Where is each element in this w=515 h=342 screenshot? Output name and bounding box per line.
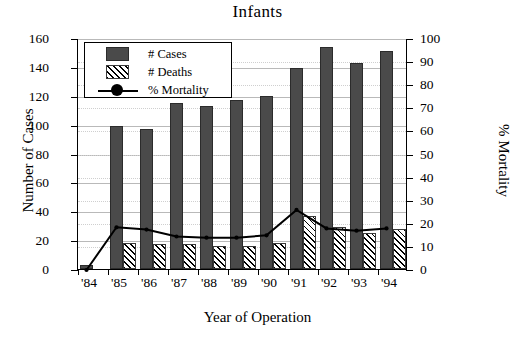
circle-marker-icon: [111, 84, 123, 96]
y-tick-right: [406, 224, 413, 225]
y-tick-label-right: 20: [420, 216, 460, 232]
chart-legend: # Cases # Deaths % Mortality: [84, 42, 232, 98]
y-tick-right: [406, 201, 413, 202]
y-tick-label-right: 0: [420, 262, 460, 278]
mortality-point: [234, 236, 238, 240]
mortality-point: [294, 208, 298, 212]
y-tick-left: [71, 126, 78, 127]
y-tick-left: [71, 39, 78, 40]
y-tick-label-right: 70: [420, 100, 460, 116]
legend-item-cases: # Cases: [85, 45, 233, 63]
y-tick-left: [71, 270, 78, 271]
mortality-point: [264, 233, 268, 237]
mortality-point: [204, 236, 208, 240]
y-tick-label-right: 80: [420, 77, 460, 93]
y-tick-label-left: 140: [9, 60, 49, 76]
y-tick-label-left: 40: [9, 204, 49, 220]
mortality-point: [114, 225, 118, 229]
y-tick-right: [406, 155, 413, 156]
y-tick-label-right: 10: [420, 239, 460, 255]
legend-label: % Mortality: [148, 81, 209, 99]
x-tick-label: '94: [369, 275, 409, 291]
y-tick-right: [406, 131, 413, 132]
y-tick-label-left: 100: [9, 118, 49, 134]
y-tick-label-right: 90: [420, 54, 460, 70]
y-tick-label-left: 80: [9, 147, 49, 163]
y-tick-right: [406, 270, 413, 271]
y-tick-label-right: 60: [420, 123, 460, 139]
legend-item-mortality: % Mortality: [85, 81, 233, 99]
y-tick-label-left: 20: [9, 233, 49, 249]
y-tick-right: [406, 178, 413, 179]
y-tick-left: [71, 241, 78, 242]
y-tick-right: [406, 39, 413, 40]
y-tick-right: [406, 247, 413, 248]
y-tick-right: [406, 85, 413, 86]
x-axis-title: Year of Operation: [0, 309, 515, 326]
chart-container: Infants Year of Operation Number of Case…: [0, 0, 515, 342]
y-tick-label-left: 120: [9, 89, 49, 105]
page-title: Infants: [0, 2, 515, 22]
y-axis-right-title: % Mortality: [495, 61, 512, 261]
mortality-line: [87, 210, 387, 270]
y-tick-left: [71, 183, 78, 184]
y-tick-right: [406, 62, 413, 63]
y-tick-label-left: 60: [9, 175, 49, 191]
y-tick-right: [406, 108, 413, 109]
y-tick-label-right: 30: [420, 193, 460, 209]
mortality-point: [324, 226, 328, 230]
mortality-point: [144, 228, 148, 232]
y-tick-label-left: 0: [9, 262, 49, 278]
legend-label: # Cases: [148, 45, 187, 63]
y-tick-left: [71, 212, 78, 213]
y-tick-label-left: 160: [9, 31, 49, 47]
hatched-bar-swatch-icon: [106, 65, 129, 79]
y-tick-label-right: 100: [420, 31, 460, 47]
y-tick-left: [71, 155, 78, 156]
mortality-point: [354, 229, 358, 233]
y-tick-left: [71, 68, 78, 69]
mortality-point: [84, 268, 88, 272]
y-tick-label-right: 40: [420, 170, 460, 186]
legend-label: # Deaths: [148, 63, 192, 81]
y-tick-left: [71, 97, 78, 98]
y-tick-label-right: 50: [420, 147, 460, 163]
legend-item-deaths: # Deaths: [85, 63, 233, 81]
dark-bar-swatch-icon: [106, 47, 129, 61]
mortality-point: [174, 234, 178, 238]
mortality-point: [384, 226, 388, 230]
